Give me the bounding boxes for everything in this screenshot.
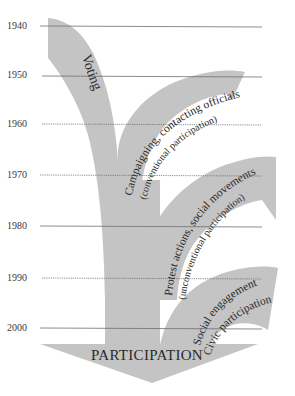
year-label: 1990 xyxy=(7,272,27,283)
participation-diagram: 1940 1950 1960 1970 1980 1990 2000 Votin… xyxy=(0,0,295,396)
gridline-1940 xyxy=(40,26,262,27)
year-label: 1980 xyxy=(7,220,27,231)
year-label: 1970 xyxy=(7,169,27,180)
year-label: 1960 xyxy=(7,118,27,129)
year-label: 2000 xyxy=(7,322,27,333)
year-label: 1940 xyxy=(7,20,27,31)
participation-label: PARTICIPATION xyxy=(91,347,203,363)
gridline-1980 xyxy=(40,226,262,227)
year-label: 1950 xyxy=(7,69,27,80)
